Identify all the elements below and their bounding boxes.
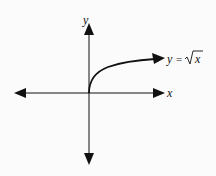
graph-svg: y x y = x (0, 0, 216, 176)
curve-arrow-icon (152, 53, 165, 64)
y-axis-label: y (82, 13, 89, 27)
x-axis-left-arrow-icon (14, 88, 26, 98)
curve-label-equals: = (176, 53, 182, 65)
curve-label: y = x (166, 51, 203, 66)
curve-label-y: y (166, 52, 173, 66)
y-axis (84, 23, 94, 165)
sqrt-graph-diagram: y x y = x (0, 0, 216, 176)
sqrt-curve (89, 53, 165, 93)
x-axis-label: x (166, 86, 173, 100)
x-axis-right-arrow-icon (153, 88, 165, 98)
curve-label-x: x (194, 52, 201, 66)
y-axis-down-arrow-icon (84, 153, 94, 165)
